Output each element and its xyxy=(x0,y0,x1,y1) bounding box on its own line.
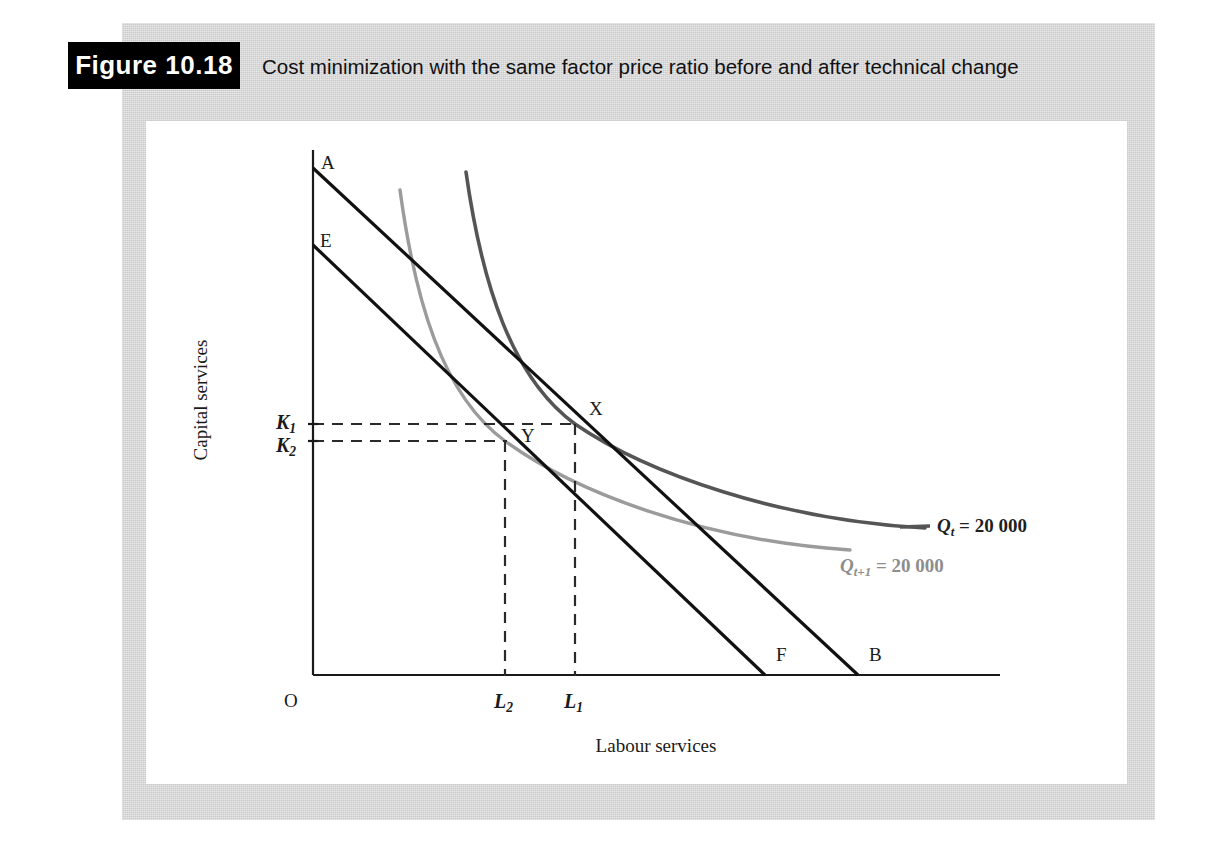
y-axis-title: Capital services xyxy=(190,300,212,500)
isoquant-label-t: Qt = 20 000 xyxy=(937,515,1027,540)
isoquant-label-t-base: Q xyxy=(937,515,951,536)
isoquant-label-t1-value: = 20 000 xyxy=(871,555,944,576)
isocost-line-ef xyxy=(313,245,765,675)
figure-page: Figure 10.18 Cost minimization with the … xyxy=(0,0,1205,847)
point-label-y: Y xyxy=(521,425,535,447)
origin-label: O xyxy=(284,690,298,712)
isoquant-t-plus-1-curve xyxy=(400,190,850,550)
isoquant-t-curve xyxy=(466,172,925,528)
tick-label-l2-base: L xyxy=(494,690,506,712)
isoquant-label-t1-sub: t+1 xyxy=(854,564,871,579)
x-axis-title: Labour services xyxy=(476,735,836,757)
figure-caption: Cost minimization with the same factor p… xyxy=(262,52,1122,82)
isoquant-label-t1-base: Q xyxy=(840,555,854,576)
isocost-label-f: F xyxy=(776,644,787,666)
tick-label-k1: K1 xyxy=(276,411,296,437)
tick-label-l1-base: L xyxy=(564,690,576,712)
tick-label-l1: L1 xyxy=(564,690,583,716)
isoquant-label-t-plus-1: Qt+1 = 20 000 xyxy=(840,555,944,580)
chart-canvas xyxy=(0,0,1205,847)
tick-label-k2: K2 xyxy=(276,434,296,460)
isocost-label-b: B xyxy=(869,644,882,666)
tick-label-k2-base: K xyxy=(276,434,289,456)
tick-label-l2: L2 xyxy=(494,690,513,716)
tick-label-k2-sub: 2 xyxy=(289,444,296,459)
isocost-label-a: A xyxy=(321,152,335,174)
tick-label-k1-base: K xyxy=(276,411,289,433)
isoquant-label-t-value: = 20 000 xyxy=(954,515,1027,536)
isocost-line-ab xyxy=(313,168,858,675)
leader-q-t xyxy=(900,526,930,527)
isocost-label-e: E xyxy=(320,230,332,252)
point-label-x: X xyxy=(589,398,603,420)
tick-label-l2-sub: 2 xyxy=(506,700,513,715)
figure-number-badge: Figure 10.18 xyxy=(68,42,240,89)
tick-label-l1-sub: 1 xyxy=(576,700,583,715)
